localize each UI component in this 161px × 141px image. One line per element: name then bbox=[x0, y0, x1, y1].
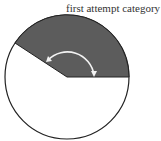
pie-chart bbox=[0, 0, 161, 141]
